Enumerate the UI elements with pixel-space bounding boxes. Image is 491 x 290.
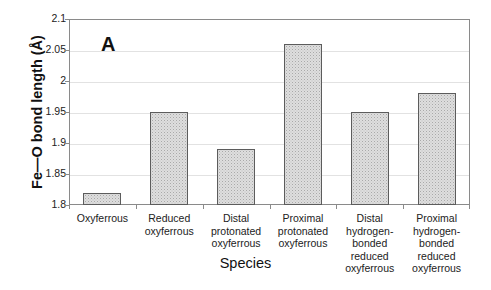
x-category-label-line: bonded (336, 237, 403, 250)
x-category-label-line: oxyferrous (270, 237, 337, 250)
x-tick-mark (69, 205, 70, 209)
bars-layer (69, 19, 470, 205)
bar (418, 93, 456, 205)
x-category-label-line: Distal (203, 212, 270, 225)
bar (217, 149, 255, 205)
x-category-label-line: Proximal (403, 212, 470, 225)
y-tick-label: 1.9 (20, 137, 66, 148)
x-category-label-line: hydrogen- (403, 225, 470, 238)
y-tick-label: 1.85 (20, 168, 66, 179)
x-category-label: Oxyferrous (69, 212, 136, 225)
x-tick-mark (403, 205, 404, 209)
x-category-label: Reducedoxyferrous (136, 212, 203, 237)
x-category-label-line: Proximal (270, 212, 337, 225)
x-tick-mark (469, 205, 470, 209)
bar (150, 112, 188, 205)
y-tick-label: 2.1 (20, 13, 66, 24)
x-category-label-line: protonated (203, 225, 270, 238)
x-category-label-line: oxyferrous (203, 237, 270, 250)
y-tick-label: 2 (20, 75, 66, 86)
x-category-label-line: Distal (336, 212, 403, 225)
x-tick-mark (270, 205, 271, 209)
x-category-label: Distalprotonatedoxyferrous (203, 212, 270, 250)
y-tick-label: 1.95 (20, 106, 66, 117)
x-category-label-line: bonded (403, 237, 470, 250)
x-tick-mark (203, 205, 204, 209)
x-category-label-line: hydrogen- (336, 225, 403, 238)
x-category-label-line: oxyferrous (136, 225, 203, 238)
panel-label: A (101, 33, 115, 56)
x-category-label-line: Reduced (136, 212, 203, 225)
bar (83, 193, 121, 205)
bar (284, 44, 322, 205)
x-category-label-line: Oxyferrous (69, 212, 136, 225)
y-tick-label: 2.05 (20, 44, 66, 55)
y-tick-label: 1.8 (20, 199, 66, 210)
bar (351, 112, 389, 205)
x-category-label: Proximalprotonatedoxyferrous (270, 212, 337, 250)
x-tick-mark (336, 205, 337, 209)
x-category-label-line: protonated (270, 225, 337, 238)
x-tick-mark (136, 205, 137, 209)
bar-chart-figure: Fe—O bond length (Å) 2.1 2.05 2 1.95 1.9… (0, 0, 491, 290)
x-axis-title: Species (0, 255, 491, 271)
